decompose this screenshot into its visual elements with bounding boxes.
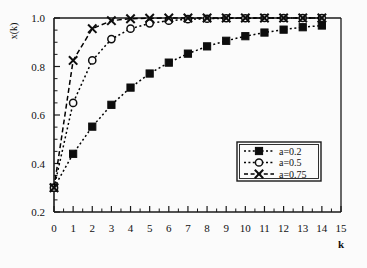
x-tick-label: 6 — [166, 222, 172, 234]
legend-sample-marker — [255, 159, 262, 166]
x-tick-label: 4 — [128, 222, 134, 234]
x-tick-label: 0 — [51, 222, 57, 234]
data-point — [223, 37, 230, 44]
legend-sample-marker — [255, 147, 262, 154]
x-tick-label: 2 — [90, 222, 96, 234]
marker-square — [146, 70, 153, 77]
data-point — [280, 26, 287, 33]
data-point — [108, 35, 115, 42]
y-tick-label: 0.4 — [31, 158, 45, 170]
marker-square — [127, 84, 134, 91]
data-point — [70, 150, 77, 157]
marker-square — [242, 33, 249, 40]
marker-square — [108, 101, 115, 108]
marker-square — [70, 150, 77, 157]
chart-legend: a=0.2a=0.5a=0.75 — [237, 142, 321, 181]
marker-square — [223, 37, 230, 44]
marker-square — [299, 24, 306, 31]
y-axis-title: x(k) — [8, 23, 20, 40]
legend-entry-label: a=0.75 — [279, 169, 307, 180]
x-tick-label: 1 — [70, 222, 76, 234]
x-tick-label: 10 — [240, 222, 252, 234]
x-tick-label: 9 — [223, 222, 229, 234]
data-point — [89, 57, 96, 64]
marker-square — [261, 29, 268, 36]
marker-square — [203, 43, 210, 50]
data-point — [108, 101, 115, 108]
marker-square — [165, 59, 172, 66]
x-tick-label: 3 — [109, 222, 115, 234]
marker-square — [255, 147, 262, 154]
data-point — [299, 24, 306, 31]
data-point — [165, 59, 172, 66]
data-point — [261, 29, 268, 36]
data-point — [127, 84, 134, 91]
x-tick-label: 15 — [336, 222, 348, 234]
x-tick-label: 11 — [259, 222, 270, 234]
data-point — [70, 99, 77, 106]
chart-figure: 01234567891011121314150.20.40.60.81.0 a=… — [0, 0, 367, 268]
y-tick-label: 0.6 — [31, 109, 45, 121]
marker-circle — [255, 159, 262, 166]
y-tick-label: 1.0 — [31, 12, 45, 24]
data-point — [146, 70, 153, 77]
marker-circle — [70, 99, 77, 106]
data-point — [242, 33, 249, 40]
data-point — [127, 25, 134, 32]
chart-plot-svg: 01234567891011121314150.20.40.60.81.0 a=… — [0, 0, 367, 268]
legend-entry-label: a=0.2 — [279, 146, 302, 157]
data-point — [203, 43, 210, 50]
data-point — [184, 50, 191, 57]
marker-circle — [127, 25, 134, 32]
data-point — [89, 123, 96, 130]
marker-circle — [89, 57, 96, 64]
x-tick-label: 5 — [147, 222, 153, 234]
x-tick-label: 13 — [297, 222, 309, 234]
marker-square — [318, 22, 325, 29]
marker-circle — [108, 35, 115, 42]
x-tick-label: 8 — [204, 222, 210, 234]
x-axis-title: k — [338, 238, 345, 250]
x-tick-label: 7 — [185, 222, 191, 234]
data-point — [318, 22, 325, 29]
x-tick-label: 12 — [278, 222, 289, 234]
y-tick-label: 0.8 — [31, 61, 45, 73]
marker-square — [89, 123, 96, 130]
marker-square — [280, 26, 287, 33]
marker-square — [184, 50, 191, 57]
y-tick-label: 0.2 — [31, 206, 45, 218]
x-tick-label: 14 — [316, 222, 328, 234]
legend-entry-label: a=0.5 — [279, 157, 302, 168]
